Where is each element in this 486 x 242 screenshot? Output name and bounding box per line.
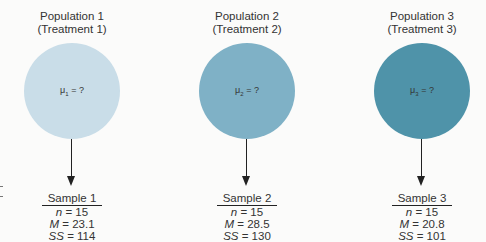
sample-ss: SS = 130 [167, 230, 327, 242]
arrow-down-icon [67, 176, 75, 186]
population-title: Population 3 (Treatment 3) [342, 10, 486, 36]
population-mean-label: μ2 = ? [199, 85, 295, 97]
sample-n: n = 15 [0, 206, 152, 218]
treatment-label: (Treatment 2) [167, 23, 327, 36]
sample-mean: M = 23.1 [0, 218, 152, 230]
arrow-down-icon [242, 176, 250, 186]
population-title: Population 1 (Treatment 1) [0, 10, 152, 36]
population-name: Population 1 [0, 10, 152, 23]
population-name: Population 2 [167, 10, 327, 23]
sample-stats: Sample 2 n = 15 M = 28.5 SS = 130 [167, 188, 327, 242]
population-circle: μ1 = ? [24, 43, 120, 139]
sample-ss: SS = 114 [0, 230, 152, 242]
sample-n: n = 15 [167, 206, 327, 218]
treatment-label: (Treatment 3) [342, 23, 486, 36]
sample-mean: M = 28.5 [167, 218, 327, 230]
population-circle: μ2 = ? [199, 43, 295, 139]
sample-n: n = 15 [342, 206, 486, 218]
arrow-down-icon [417, 176, 425, 186]
population-name: Population 3 [342, 10, 486, 23]
population-title: Population 2 (Treatment 2) [167, 10, 327, 36]
sample-stats: Sample 3 n = 15 M = 20.8 SS = 101 [342, 188, 486, 242]
treatment-label: (Treatment 1) [0, 23, 152, 36]
sample-name: Sample 2 [217, 192, 278, 206]
population-circle: μ3 = ? [374, 43, 470, 139]
sample-name: Sample 1 [42, 192, 103, 206]
sample-name: Sample 3 [392, 192, 453, 206]
population-mean-label: μ3 = ? [374, 85, 470, 97]
population-mean-label: μ1 = ? [24, 85, 120, 97]
sample-mean: M = 20.8 [342, 218, 486, 230]
sample-stats: Sample 1 n = 15 M = 23.1 SS = 114 [0, 188, 152, 242]
arrow-line [71, 139, 72, 179]
tick-mark [0, 186, 3, 187]
arrow-line [246, 139, 247, 179]
arrow-line [421, 139, 422, 179]
sample-ss: SS = 101 [342, 230, 486, 242]
